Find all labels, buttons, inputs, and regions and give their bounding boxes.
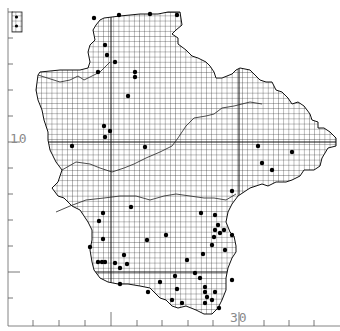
- record-dot: [218, 231, 222, 235]
- record-dot: [133, 70, 137, 74]
- record-dot: [122, 253, 126, 257]
- record-dot: [213, 213, 217, 217]
- record-dot: [118, 266, 122, 270]
- record-dot: [230, 233, 234, 237]
- record-dot: [205, 295, 209, 299]
- record-dot: [97, 219, 101, 223]
- record-dot: [88, 245, 92, 249]
- record-dot: [203, 290, 207, 294]
- record-dot: [126, 94, 130, 98]
- record-dot: [223, 248, 227, 252]
- record-dot: [133, 75, 137, 79]
- record-dot: [203, 285, 207, 289]
- record-dot: [70, 144, 74, 148]
- record-dot: [193, 271, 197, 275]
- record-dot: [290, 150, 294, 154]
- record-dot: [101, 237, 105, 241]
- record-dot: [185, 258, 189, 262]
- record-dot: [101, 211, 105, 215]
- record-dot: [213, 290, 217, 294]
- record-dot: [199, 211, 203, 215]
- record-dot: [92, 16, 96, 20]
- record-dot: [270, 168, 274, 172]
- record-dot: [175, 13, 179, 17]
- record-dot: [222, 228, 226, 232]
- record-dot: [201, 252, 205, 256]
- record-dot: [103, 43, 107, 47]
- record-dot: [230, 278, 234, 282]
- record-dot: [148, 12, 152, 16]
- record-dot: [125, 262, 129, 266]
- record-dot: [230, 189, 234, 193]
- record-dot: [216, 223, 220, 227]
- record-dot: [198, 276, 202, 280]
- record-dot: [203, 301, 207, 305]
- record-dot: [102, 124, 106, 128]
- record-dot: [175, 287, 179, 291]
- record-dot: [213, 228, 217, 232]
- record-dot: [96, 260, 100, 264]
- record-dot: [103, 135, 107, 139]
- record-dot: [96, 70, 100, 74]
- x-axis-label-30: 30: [230, 310, 248, 325]
- record-dot: [217, 306, 221, 310]
- distribution-map: [0, 0, 340, 331]
- record-dot: [143, 145, 147, 149]
- record-dot: [180, 301, 184, 305]
- record-dot: [117, 13, 121, 17]
- record-dot: [118, 282, 122, 286]
- record-dot: [210, 298, 214, 302]
- record-dot: [113, 60, 117, 64]
- inset-box: [12, 12, 22, 32]
- record-dot: [212, 235, 216, 239]
- record-dot: [108, 129, 112, 133]
- record-dot: [170, 298, 174, 302]
- record-dot: [105, 53, 109, 57]
- y-axis-label-10: 10: [10, 131, 28, 146]
- record-dot: [100, 260, 104, 264]
- record-dot: [113, 261, 117, 265]
- record-dot: [256, 144, 260, 148]
- record-dot: [129, 205, 133, 209]
- record-dot: [260, 161, 264, 165]
- record-dot: [173, 274, 177, 278]
- record-dot: [158, 280, 162, 284]
- record-dot: [210, 243, 214, 247]
- region-grid: [0, 0, 340, 331]
- record-dot: [145, 238, 149, 242]
- record-dot: [164, 233, 168, 237]
- record-dot: [146, 290, 150, 294]
